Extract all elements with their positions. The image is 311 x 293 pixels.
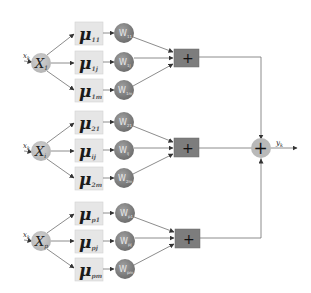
input-label-1: xk: [23, 52, 30, 61]
input-arrow-3: [24, 240, 32, 241]
summation-node: +: [251, 138, 271, 158]
arrow: [133, 126, 173, 142]
plus-icon: +: [254, 138, 268, 158]
branch-arrow: [47, 34, 74, 55]
connector-line: [200, 158, 261, 238]
plus-icon: +: [182, 50, 194, 66]
branch-arrow: [47, 159, 74, 178]
neural-network-diagram: xk X1 μ11 μ1j μ1m W11 W1j W1m +: [0, 0, 311, 293]
input-label-2: xk: [23, 142, 30, 151]
plus-icon: +: [182, 140, 194, 156]
branch-arrow: [47, 123, 74, 143]
arrow: [133, 154, 173, 174]
input-arrow-1: [24, 61, 32, 62]
output-label: yk: [275, 139, 283, 148]
arrow: [134, 244, 174, 265]
input-arrow-2: [24, 151, 32, 152]
arrow: [133, 64, 173, 86]
input-label-3: xk: [23, 231, 30, 240]
group-1: xk X1 μ11 μ1j μ1m W11 W1j W1m +: [23, 22, 261, 147]
connector-line: [199, 57, 261, 147]
branch-arrow: [47, 214, 74, 233]
arrow: [133, 37, 173, 52]
branch-arrow: [47, 249, 74, 268]
group-3: xk Xp μp1 μpj μpm Wp1 Wpj Wpm +: [23, 158, 261, 281]
branch-arrow: [47, 71, 74, 90]
plus-icon: +: [183, 231, 195, 247]
group-2: xk Xi μ21 μij μ2m W21 Wij W2m +: [23, 111, 252, 190]
arrow: [134, 217, 174, 232]
